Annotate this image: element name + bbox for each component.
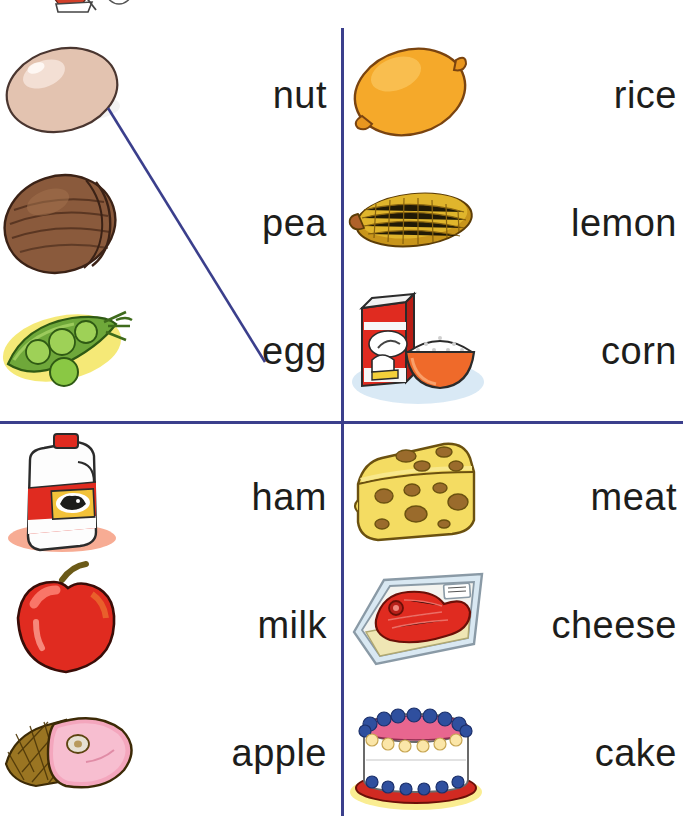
cheese-picture[interactable] [348,432,498,562]
apple-picture[interactable] [0,560,150,690]
word-rice[interactable]: rice [614,30,677,160]
cake-picture[interactable] [348,688,498,816]
match-row: apple [0,688,335,816]
word-corn[interactable]: corn [601,286,677,416]
rice-picture[interactable] [348,286,498,416]
pea-picture[interactable] [0,286,150,416]
quadrant-top-left: nut pea [0,30,335,415]
word-apple[interactable]: apple [232,688,327,816]
egg-picture[interactable] [0,30,150,160]
match-row: egg [0,286,335,416]
match-row: meat [348,432,683,562]
word-nut[interactable]: nut [273,30,327,160]
word-meat[interactable]: meat [591,432,677,562]
match-row: milk [0,560,335,690]
quadrant-bottom-right: meat cheese [348,432,683,816]
match-row: nut [0,30,335,160]
top-clipped-artwork [0,0,683,22]
match-row: cheese [348,560,683,690]
word-egg[interactable]: egg [262,286,327,416]
word-pea[interactable]: pea [262,158,327,288]
match-row: ham [0,432,335,562]
quadrant-top-right: rice lemon [348,30,683,415]
partial-egg-icon [104,0,134,8]
word-lemon[interactable]: lemon [571,158,677,288]
vertical-divider [341,28,344,816]
match-row: pea [0,158,335,288]
word-cake[interactable]: cake [595,688,677,816]
match-row: cake [348,688,683,816]
word-cheese[interactable]: cheese [551,560,677,690]
partial-meat-icon [52,0,98,14]
meat-picture[interactable] [348,560,498,690]
corn-picture[interactable] [348,158,498,288]
quadrant-bottom-left: ham milk [0,432,335,816]
match-row: rice [348,30,683,160]
ham-picture[interactable] [0,688,150,816]
match-row: corn [348,286,683,416]
word-ham[interactable]: ham [252,432,327,562]
milk-picture[interactable] [0,432,150,562]
nut-picture[interactable] [0,158,150,288]
lemon-picture[interactable] [348,30,498,160]
worksheet-page: nut pea [0,0,683,816]
match-row: lemon [348,158,683,288]
word-milk[interactable]: milk [257,560,327,690]
